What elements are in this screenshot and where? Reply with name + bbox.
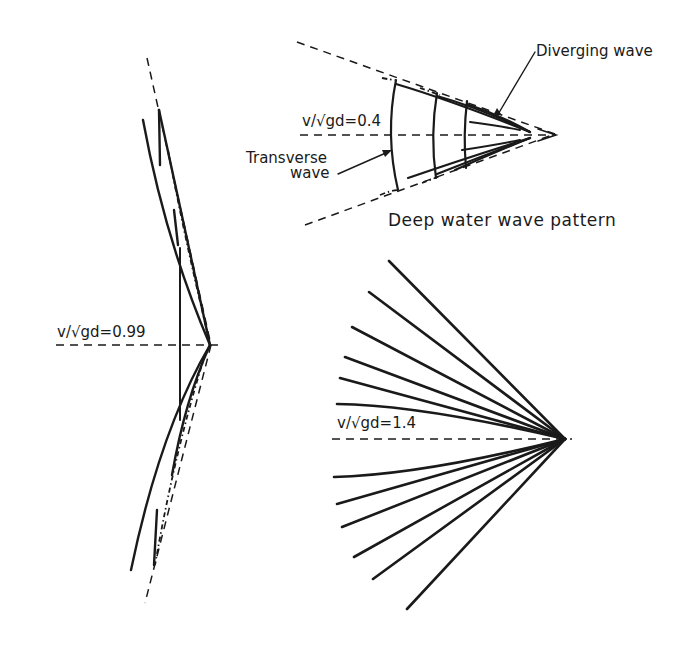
transverse-crest-1 xyxy=(391,80,398,190)
critical-lower-curve-outer xyxy=(131,345,210,570)
panel-critical: v/√gd=0.99 xyxy=(56,58,220,603)
panel-supercritical: v/√gd=1.4 xyxy=(332,261,572,609)
panel-deep-water: v/√gd=0.4 Diverging wave Transverse wave… xyxy=(245,42,653,230)
transverse-crest-2 xyxy=(433,93,437,178)
supercritical-lower-rays xyxy=(334,439,565,609)
cusp-upper-1 xyxy=(382,78,396,80)
critical-lower-stub xyxy=(154,510,157,565)
supercritical-upper-rays xyxy=(337,261,565,439)
froude-label-supercritical: v/√gd=1.4 xyxy=(337,414,416,432)
froude-label-critical: v/√gd=0.99 xyxy=(57,323,146,341)
diverging-crest-lower-3 xyxy=(455,138,530,170)
froude-label-deep: v/√gd=0.4 xyxy=(302,112,381,130)
transverse-arrowhead-icon xyxy=(382,150,392,157)
transverse-leader-line xyxy=(338,152,388,174)
critical-upper-short xyxy=(174,210,178,245)
diverging-wave-label: Diverging wave xyxy=(536,42,653,60)
diverging-crest-upper-1 xyxy=(396,84,530,132)
wave-pattern-figure: v/√gd=0.4 Diverging wave Transverse wave… xyxy=(0,0,690,649)
diverging-leader-line xyxy=(497,52,535,116)
transverse-label-line2: wave xyxy=(290,164,330,182)
deep-water-caption: Deep water wave pattern xyxy=(388,210,616,230)
